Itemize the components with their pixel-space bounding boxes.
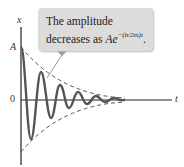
callout-exponent: −(b/2m)t: [118, 31, 143, 39]
origin-label: 0: [10, 93, 15, 104]
callout-box: The amplitude decreases as Ae−(b/2m)t.: [38, 8, 153, 51]
y-axis-label: x: [17, 14, 21, 25]
callout-line2: decreases as Ae−(b/2m)t.: [46, 28, 146, 46]
damped-curve: [21, 47, 125, 139]
callout-arrow-icon: [57, 51, 67, 56]
callout-text: The amplitude decreases as Ae−(b/2m)t.: [46, 14, 146, 46]
x-axis-label: t: [175, 93, 178, 104]
callout-pointer: [47, 55, 62, 78]
callout-expression: Ae: [105, 33, 117, 45]
amplitude-label: A: [10, 41, 16, 52]
callout-line1: The amplitude: [46, 14, 146, 28]
